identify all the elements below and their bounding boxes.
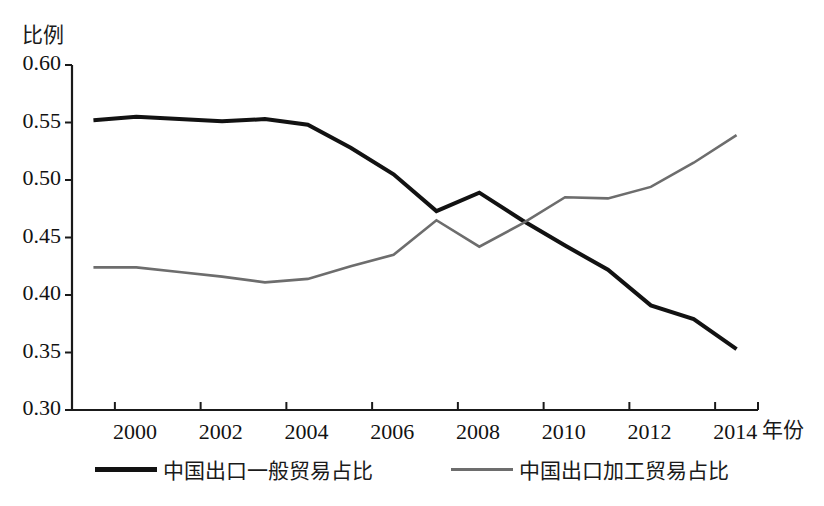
series-lines	[93, 117, 736, 349]
x-tick-label: 2012	[609, 419, 689, 445]
y-tick-label: 0.60	[0, 50, 61, 76]
y-tick-label: 0.50	[0, 165, 61, 191]
chart-figure: 比例 年份 0.600.550.500.450.400.350.30 20002…	[0, 0, 824, 506]
x-tick-marks	[115, 402, 758, 410]
chart-legend: 中国出口一般贸易占比中国出口加工贸易占比	[0, 452, 824, 486]
x-tick-label: 2006	[352, 419, 432, 445]
series-line-1	[93, 117, 736, 349]
y-axis-title: 比例	[22, 18, 64, 48]
y-tick-label: 0.45	[0, 223, 61, 249]
legend-line-swatch-2	[451, 468, 513, 471]
x-tick-label: 2000	[95, 419, 175, 445]
x-tick-label: 2004	[266, 419, 346, 445]
y-tick-label: 0.30	[0, 395, 61, 421]
x-tick-label: 2008	[438, 419, 518, 445]
series-line-2	[93, 135, 736, 282]
legend-line-swatch-1	[95, 467, 157, 472]
y-tick-label: 0.40	[0, 280, 61, 306]
legend-entry-1[interactable]: 中国出口一般贸易占比	[95, 454, 373, 484]
y-tick-label: 0.35	[0, 338, 61, 364]
y-tick-label: 0.55	[0, 108, 61, 134]
legend-entry-2[interactable]: 中国出口加工贸易占比	[451, 454, 729, 484]
x-tick-label: 2002	[181, 419, 261, 445]
x-tick-label: 2010	[524, 419, 604, 445]
legend-label-2: 中国出口加工贸易占比	[519, 454, 729, 484]
x-tick-label: 2014	[695, 419, 775, 445]
legend-label-1: 中国出口一般贸易占比	[163, 454, 373, 484]
